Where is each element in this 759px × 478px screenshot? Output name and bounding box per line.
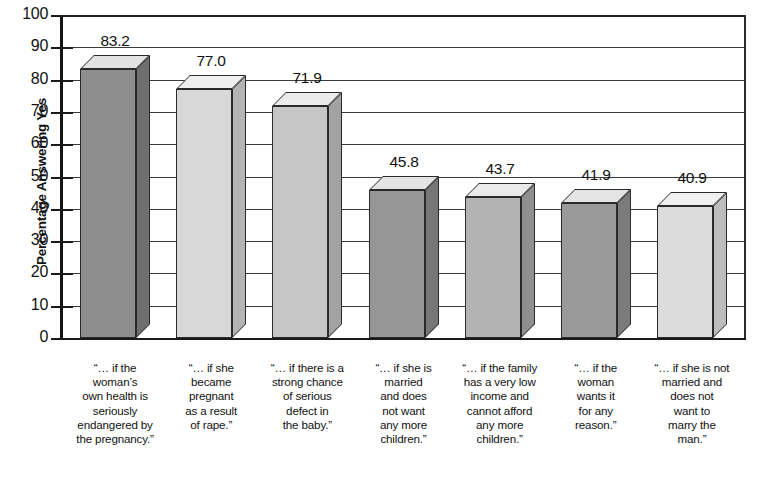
bar-value-label: 83.2 — [68, 32, 162, 50]
x-axis-category-line: any more — [448, 418, 552, 432]
bar-side-face — [617, 189, 631, 338]
bar-value-label: 40.9 — [645, 169, 739, 187]
x-axis-category-line: as a result — [159, 404, 263, 418]
bar-side-face — [136, 55, 150, 338]
y-tick-label: 70 — [8, 102, 48, 120]
y-tick-mark — [51, 338, 73, 340]
y-tick-label: 10 — [8, 296, 48, 314]
x-axis-category-line: want to — [640, 404, 744, 418]
x-axis-category-line: children.” — [448, 432, 552, 446]
y-tick-mark — [51, 209, 73, 211]
x-axis-category-line: man.” — [640, 432, 744, 446]
bar — [80, 55, 150, 338]
x-axis-category-line: and does — [351, 389, 455, 403]
x-axis-category-line: the pregnancy.” — [63, 432, 167, 446]
bar-value-label: 43.7 — [453, 160, 547, 178]
x-axis-category-line: income and — [448, 389, 552, 403]
bar — [657, 192, 727, 338]
x-axis-category-line: married — [351, 375, 455, 389]
bar-value-label: 77.0 — [164, 52, 258, 70]
x-axis-category-line: “… if she is — [351, 361, 455, 375]
y-tick-label: 30 — [8, 231, 48, 249]
x-axis-category-line: wants it — [544, 389, 648, 403]
bar — [272, 92, 342, 338]
x-axis-category-line: endangered by — [63, 418, 167, 432]
x-axis-category-line: marry the — [640, 418, 744, 432]
x-axis-category-line: of serious — [255, 389, 359, 403]
x-axis-category-line: defect in — [255, 404, 359, 418]
bar — [369, 176, 439, 338]
y-tick-mark — [51, 241, 73, 243]
gridline — [61, 80, 746, 81]
y-tick-mark — [51, 306, 73, 308]
x-axis-category-line: reason.” — [544, 418, 648, 432]
x-axis-category-label: “… if the familyhas a very lowincome and… — [448, 361, 552, 446]
x-axis-category-line: of rape.” — [159, 418, 263, 432]
y-tick-label: 80 — [8, 70, 48, 88]
y-tick-label: 50 — [8, 167, 48, 185]
x-axis-category-line: pregnant — [159, 389, 263, 403]
bar-side-face — [232, 75, 246, 338]
x-axis-category-line: “… if the family — [448, 361, 552, 375]
x-axis-category-line: “… if she — [159, 361, 263, 375]
bar-side-face — [425, 176, 439, 338]
x-axis-category-line: own health is — [63, 389, 167, 403]
x-axis-category-line: cannot afford — [448, 404, 552, 418]
x-axis-category-line: for any — [544, 404, 648, 418]
bar-side-face — [713, 192, 727, 338]
bar-front-face — [465, 197, 521, 338]
x-axis-category-line: any more — [351, 418, 455, 432]
x-axis-category-line: the baby.” — [255, 418, 359, 432]
y-tick-mark — [51, 144, 73, 146]
bar-front-face — [272, 106, 328, 338]
bar-front-face — [369, 190, 425, 338]
y-tick-label: 0 — [8, 328, 48, 346]
bar-value-label: 71.9 — [260, 69, 354, 87]
bar-chart: Percentage Answering Yes 100908070605040… — [0, 0, 759, 478]
x-axis-category-line: children.” — [351, 432, 455, 446]
y-tick-mark — [51, 273, 73, 275]
x-axis-category-line: “… if she is not — [640, 361, 744, 375]
x-axis-category-label: “… if she ismarriedand doesnot wantany m… — [351, 361, 455, 446]
plot-frame-right — [744, 15, 746, 338]
bar — [465, 183, 535, 338]
gridline — [61, 47, 746, 48]
x-axis-category-label: “… if thewoman’sown health isseriouslyen… — [63, 361, 167, 446]
x-axis-category-line: “… if there is a — [255, 361, 359, 375]
gridline — [61, 338, 746, 340]
y-tick-label: 40 — [8, 199, 48, 217]
gridline — [61, 144, 746, 145]
x-axis-category-line: strong chance — [255, 375, 359, 389]
bar-front-face — [657, 206, 713, 338]
y-tick-mark — [51, 80, 73, 82]
bar-front-face — [561, 203, 617, 338]
x-axis-category-line: woman’s — [63, 375, 167, 389]
gridline — [61, 112, 746, 113]
x-axis-category-label: “… if shebecamepregnantas a resultof rap… — [159, 361, 263, 432]
y-tick-label: 100 — [8, 5, 48, 23]
bar-value-label: 45.8 — [357, 153, 451, 171]
y-tick-mark — [51, 177, 73, 179]
x-axis-category-line: has a very low — [448, 375, 552, 389]
bar-front-face — [80, 69, 136, 338]
x-axis-category-label: “… if she is notmarried anddoes notwant … — [640, 361, 744, 446]
y-tick-label: 20 — [8, 263, 48, 281]
bar — [176, 75, 246, 338]
bar-side-face — [521, 183, 535, 338]
x-axis-category-line: woman — [544, 375, 648, 389]
gridline — [61, 15, 746, 17]
x-axis-category-line: married and — [640, 375, 744, 389]
y-tick-mark — [51, 112, 73, 114]
x-axis-category-line: not want — [351, 404, 455, 418]
y-tick-label: 60 — [8, 134, 48, 152]
x-axis-category-line: “… if the — [544, 361, 648, 375]
x-axis-category-label: “… if thewomanwants itfor anyreason.” — [544, 361, 648, 432]
x-axis-category-line: seriously — [63, 404, 167, 418]
y-tick-mark — [51, 15, 73, 17]
y-tick-label: 90 — [8, 37, 48, 55]
x-axis-category-line: became — [159, 375, 263, 389]
x-axis-category-line: does not — [640, 389, 744, 403]
x-axis-category-label: “… if there is astrong chanceof seriousd… — [255, 361, 359, 432]
bar — [561, 189, 631, 338]
bar-side-face — [328, 92, 342, 338]
